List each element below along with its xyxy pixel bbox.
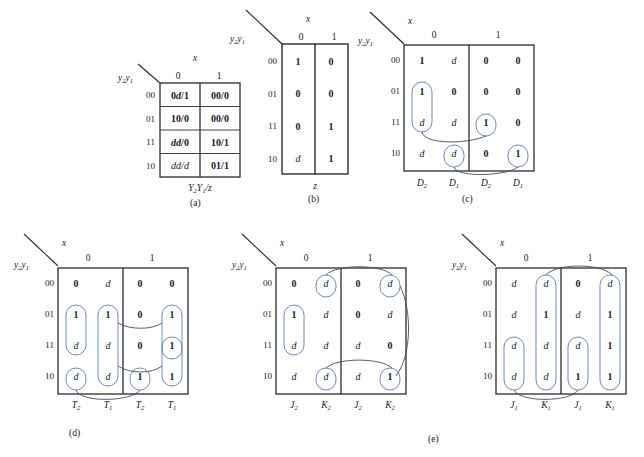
row-label-3: 10 bbox=[483, 371, 493, 381]
bottom-label-e2-0: J1 bbox=[510, 400, 517, 411]
cell-c-3-0: d bbox=[420, 148, 426, 159]
col-var-label: x bbox=[305, 14, 311, 24]
row-label-3: 10 bbox=[391, 148, 401, 158]
corner-diagonal bbox=[246, 10, 282, 44]
cell-c-1-3: 0 bbox=[516, 86, 521, 97]
col-var-label: x bbox=[192, 53, 198, 63]
cell-d-2-3: 1 bbox=[170, 340, 175, 351]
cell-d-0-0: 0 bbox=[74, 278, 79, 289]
link-arc-e1-right bbox=[396, 286, 409, 376]
bottom-label-c-1: D1 bbox=[448, 178, 459, 189]
caption-b: (b) bbox=[308, 194, 319, 204]
link-arc-e2-bottom bbox=[514, 390, 578, 399]
cell-e1-3-0: d bbox=[292, 371, 298, 382]
cell-c-1-0: 1 bbox=[420, 86, 425, 97]
cell-d-0-1: d bbox=[106, 278, 112, 289]
bottom-label-e1-2: J2 bbox=[354, 400, 362, 411]
cell-a-3-1: 01/1 bbox=[211, 160, 229, 171]
cell-e1-2-0: d bbox=[292, 340, 298, 351]
cell-b-2-1: 1 bbox=[329, 121, 334, 132]
cell-d-1-2: 0 bbox=[138, 309, 143, 320]
corner-diagonal bbox=[242, 234, 276, 266]
bottom-label-d-0: T2 bbox=[72, 400, 81, 411]
cell-c-3-3: 1 bbox=[516, 148, 521, 159]
link-arc-d-3 bbox=[76, 390, 140, 399]
row-label-1: 01 bbox=[391, 86, 400, 96]
row-label-2: 11 bbox=[45, 340, 54, 350]
row-label-2: 11 bbox=[483, 340, 492, 350]
cell-e1-2-3: 0 bbox=[388, 340, 393, 351]
cell-e2-3-0: d bbox=[512, 371, 518, 382]
cell-d-2-0: d bbox=[74, 340, 80, 351]
figure-b: y2y1 x 0 1 00 01 11 10 1 0 0 0 0 1 d 1 z… bbox=[230, 8, 350, 203]
bottom-label-d-2: T2 bbox=[136, 400, 145, 411]
cell-e2-3-1: d bbox=[544, 371, 550, 382]
bottom-label-d-3: T1 bbox=[168, 400, 177, 411]
table-d-svg: y2y1 x 0 1 00 01 11 10 0 d 0 0 1 1 0 1 d… bbox=[14, 230, 204, 430]
cell-a-1-1: 00/0 bbox=[211, 113, 229, 124]
figure-c: y2y1 x 0 1 00 01 11 10 1 d 0 0 1 0 0 0 d… bbox=[358, 8, 538, 203]
cell-e1-3-3: 1 bbox=[388, 371, 393, 382]
bottom-label-e2-3: K1 bbox=[604, 400, 615, 411]
col-var-label: x bbox=[279, 238, 285, 248]
cell-d-3-0: d bbox=[74, 371, 80, 382]
col-header-0: 0 bbox=[86, 253, 91, 263]
table-b-svg: y2y1 x 0 1 00 01 11 10 1 0 0 0 0 1 d 1 z bbox=[230, 8, 350, 203]
row-label-0: 00 bbox=[391, 55, 401, 65]
col-header-1: 1 bbox=[496, 30, 501, 40]
cell-b-0-0: 1 bbox=[296, 56, 301, 67]
cell-c-0-0: 1 bbox=[420, 55, 425, 66]
row-label-3: 10 bbox=[146, 161, 156, 171]
cell-d-1-3: 1 bbox=[170, 309, 175, 320]
col-header-1: 1 bbox=[150, 253, 155, 263]
cell-e2-1-1: 1 bbox=[544, 309, 549, 320]
cell-e2-0-0: d bbox=[512, 278, 518, 289]
bottom-label-e2-1: K1 bbox=[540, 400, 551, 411]
bottom-label-e1-0: J2 bbox=[290, 400, 298, 411]
cell-e2-1-3: 1 bbox=[608, 309, 613, 320]
cell-e2-2-1: d bbox=[544, 340, 550, 351]
row-label-2: 11 bbox=[263, 340, 272, 350]
bottom-label-e2-2: J1 bbox=[574, 400, 581, 411]
figure-e-right: y2y1 x 0 1 00 01 11 10 d d 0 d d 1 d 1 d… bbox=[452, 230, 642, 430]
col-header-0: 0 bbox=[432, 30, 437, 40]
cell-b-1-1: 0 bbox=[329, 88, 334, 99]
cell-d-2-2: 0 bbox=[138, 340, 143, 351]
cell-c-0-3: 0 bbox=[516, 55, 521, 66]
row-header-label: y2y1 bbox=[117, 73, 133, 84]
cell-e2-1-0: d bbox=[512, 309, 518, 320]
row-header-label: y2y1 bbox=[229, 34, 245, 45]
row-header-label: y2y1 bbox=[357, 36, 373, 47]
cell-d-3-3: 1 bbox=[170, 371, 175, 382]
row-label-0: 00 bbox=[268, 56, 278, 66]
cell-e1-1-3: d bbox=[388, 309, 394, 320]
cell-a-2-0: dd/0 bbox=[171, 137, 189, 148]
cell-b-1-0: 0 bbox=[296, 88, 301, 99]
cell-a-1-0: 10/0 bbox=[171, 113, 189, 124]
cell-c-2-2: 1 bbox=[484, 117, 489, 128]
link-arc-c-1 bbox=[422, 132, 486, 142]
row-header-label: y2y1 bbox=[13, 260, 29, 271]
cell-e1-3-1: d bbox=[324, 371, 330, 382]
row-label-0: 00 bbox=[263, 278, 273, 288]
cell-d-2-1: d bbox=[106, 340, 112, 351]
corner-diagonal bbox=[462, 234, 496, 266]
cell-c-2-3: 0 bbox=[516, 117, 521, 128]
cell-e1-0-1: d bbox=[324, 278, 330, 289]
row-label-1: 01 bbox=[483, 309, 492, 319]
row-label-1: 01 bbox=[146, 114, 155, 124]
table-b-bottom-label: z bbox=[312, 181, 317, 191]
cell-b-2-0: 0 bbox=[296, 121, 301, 132]
bottom-label-e1-1: K2 bbox=[320, 400, 331, 411]
cell-e2-0-2: 0 bbox=[576, 278, 581, 289]
cell-e1-1-1: d bbox=[324, 309, 330, 320]
corner-diagonal bbox=[370, 12, 404, 44]
cell-c-2-0: d bbox=[420, 117, 426, 128]
cell-e1-2-2: d bbox=[356, 340, 362, 351]
cell-a-3-0: dd/d bbox=[171, 160, 190, 171]
cell-e1-3-2: d bbox=[356, 371, 362, 382]
row-label-0: 00 bbox=[483, 278, 493, 288]
row-label-2: 11 bbox=[146, 137, 155, 147]
figure-a: y2y1 x 0 1 00 01 11 10 0d/1 00/0 10/0 00… bbox=[118, 50, 248, 205]
figure-e-left: y2y1 x 0 1 00 01 11 10 0 d 0 d 1 d 0 d d… bbox=[232, 230, 422, 430]
